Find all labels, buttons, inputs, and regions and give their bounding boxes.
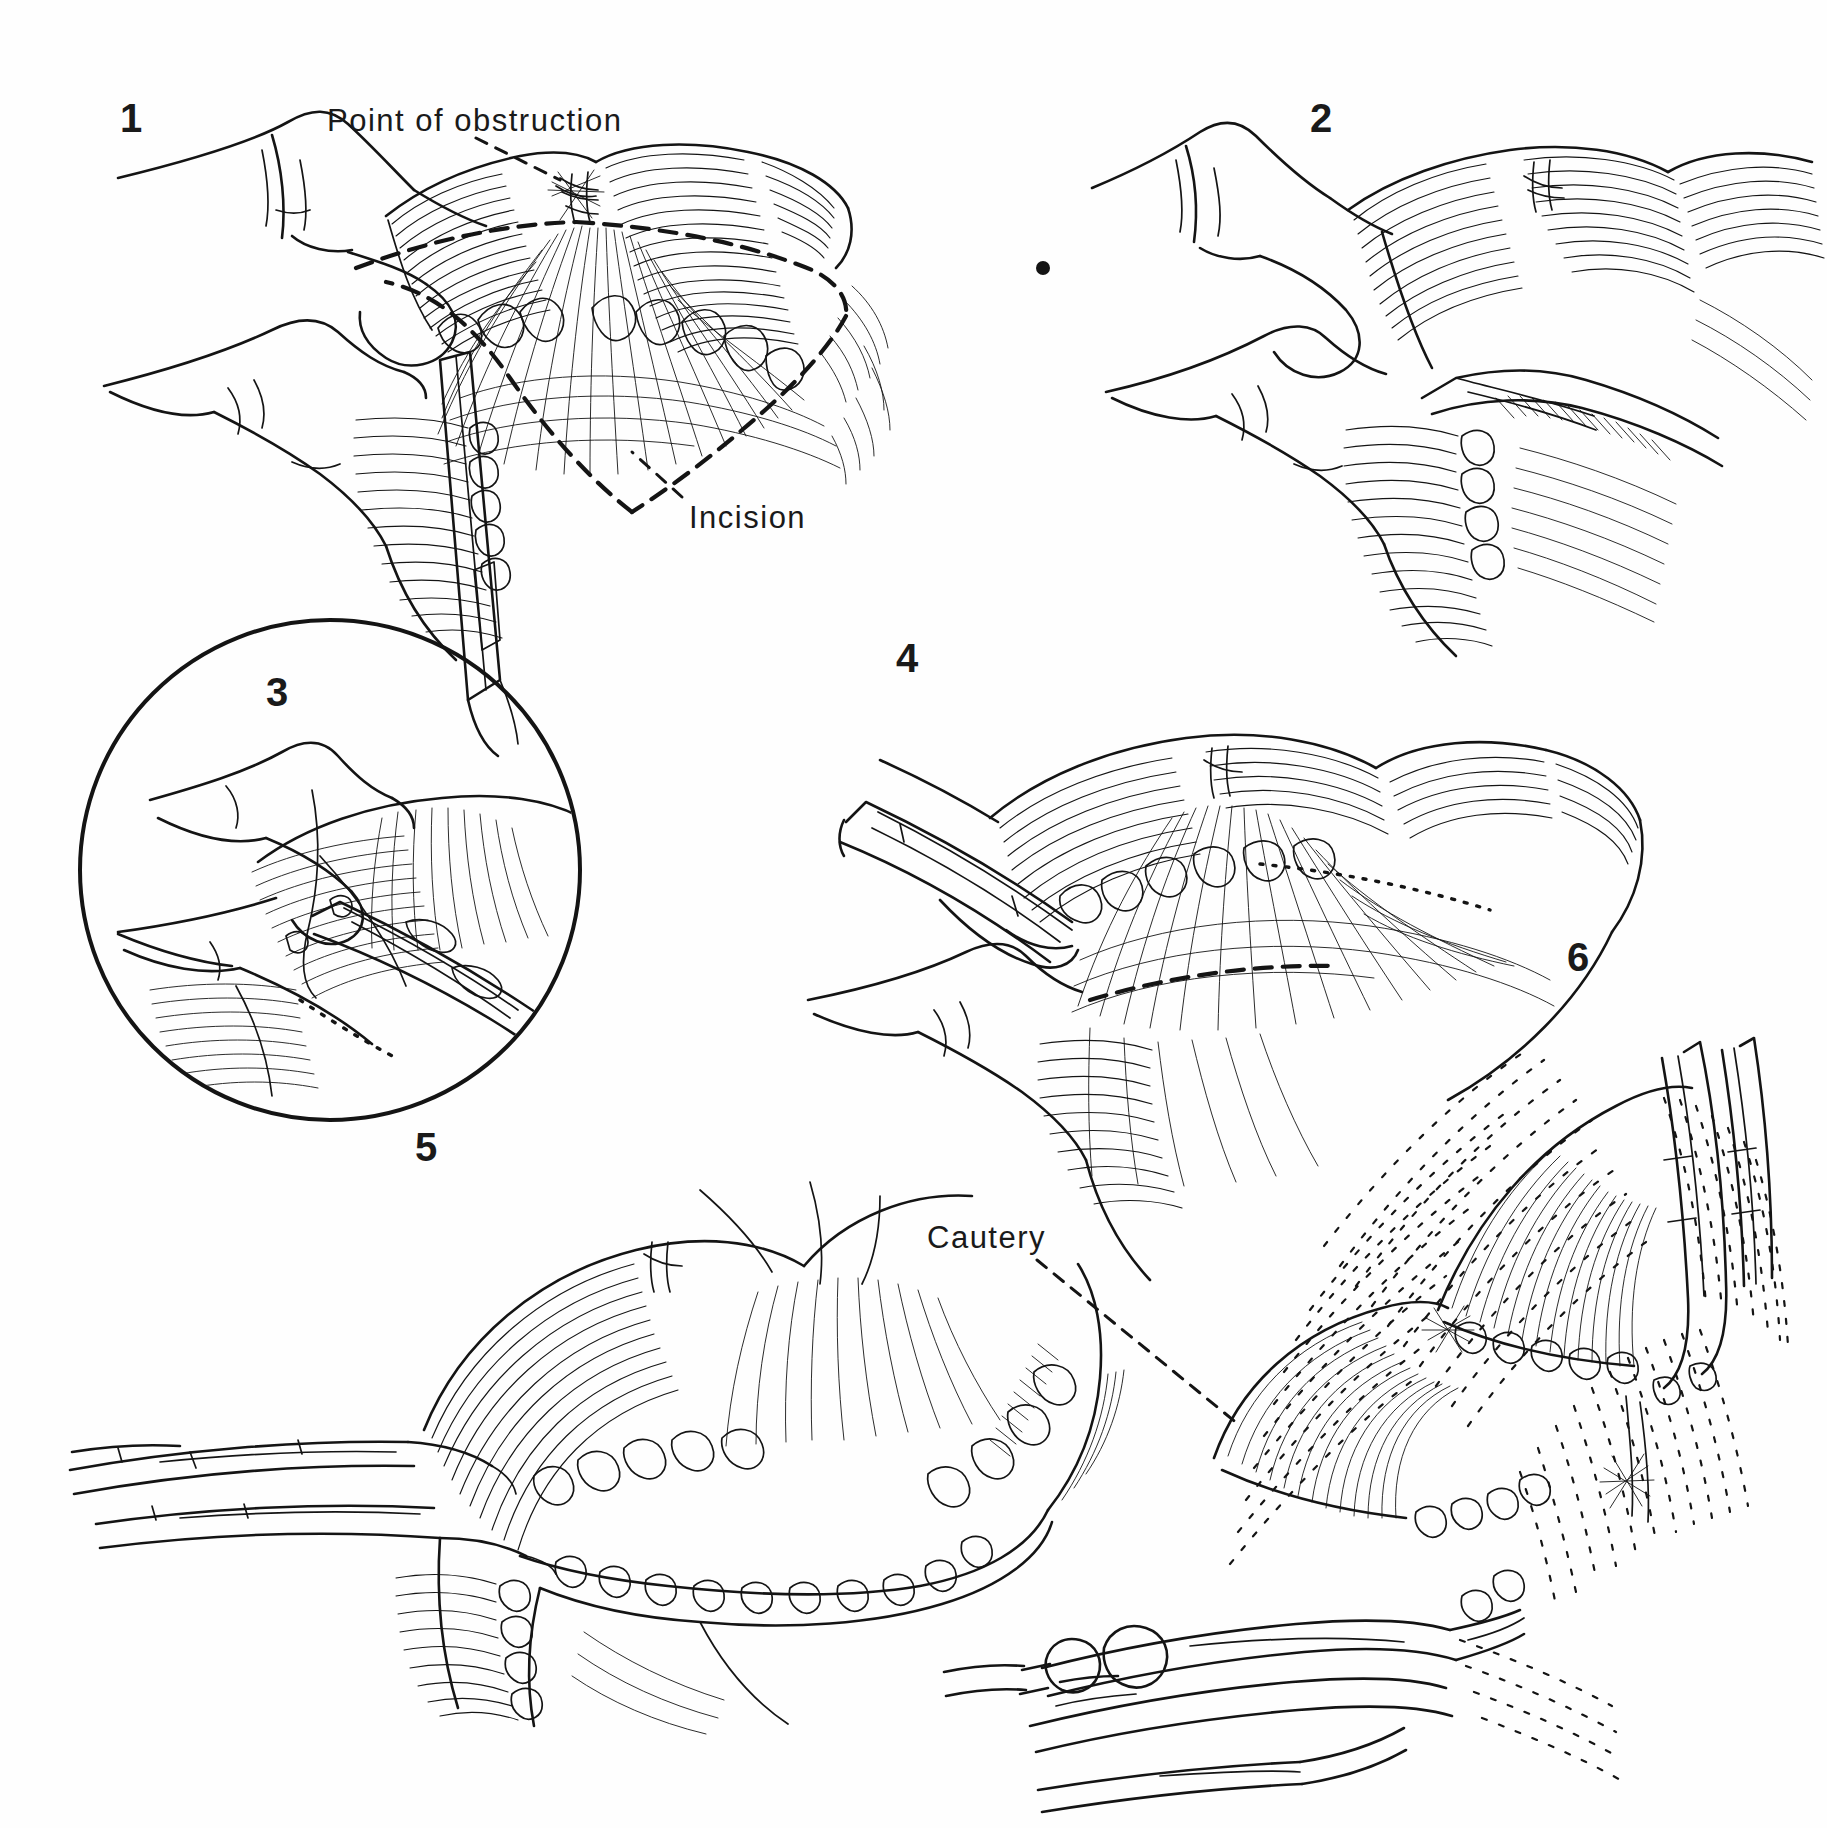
panel-number-3: 3 <box>266 670 288 715</box>
panel-number-6: 6 <box>1567 935 1589 980</box>
leader-point-of-obstruction <box>476 138 560 180</box>
illustration-plate: .s{fill:none;stroke:#141414;stroke-linec… <box>0 0 1827 1828</box>
panel-number-4: 4 <box>896 636 918 681</box>
leader-cautery <box>1037 1260 1238 1424</box>
panel-1-artwork <box>104 112 890 756</box>
callout-leaders <box>476 138 1238 1424</box>
callout-point-of-obstruction: Point of obstruction <box>327 103 622 139</box>
panel-6-artwork <box>944 1038 1788 1812</box>
ink-dot-artifact <box>1036 261 1050 275</box>
callout-incision: Incision <box>689 500 806 536</box>
panel-number-2: 2 <box>1310 96 1332 141</box>
panel-5-artwork <box>70 1182 1124 1734</box>
illustration-canvas: .s{fill:none;stroke:#141414;stroke-linec… <box>0 0 1827 1828</box>
panel-number-5: 5 <box>415 1125 437 1170</box>
panel-number-1: 1 <box>120 96 142 141</box>
panel-3-artwork <box>80 620 608 1120</box>
panel-2-artwork <box>1092 123 1824 656</box>
callout-cautery: Cautery <box>927 1220 1046 1256</box>
